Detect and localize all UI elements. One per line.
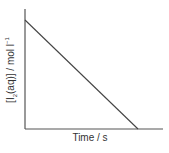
chart-plot xyxy=(0,0,169,153)
x-axis-label: Time / s xyxy=(72,132,107,143)
y-axis-label: [I2(aq)] / mol l−1 xyxy=(4,37,17,103)
data-line xyxy=(25,20,138,129)
